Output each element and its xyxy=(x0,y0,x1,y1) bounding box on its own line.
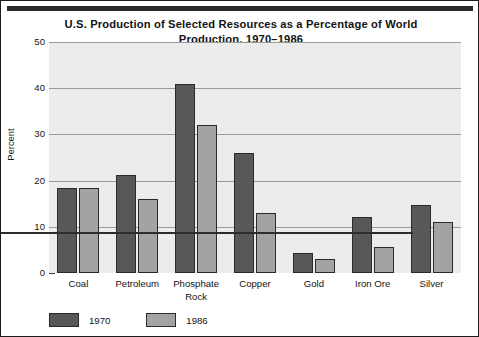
bar-copper-1986 xyxy=(256,213,276,273)
bar-iron-ore-1986 xyxy=(374,247,394,273)
y-axis-tick-mark xyxy=(49,273,55,274)
y-axis-ticks: 50403020100 xyxy=(13,42,45,273)
y-axis-tick-label: 30 xyxy=(17,128,45,139)
bar-phosphate-rock-1986 xyxy=(197,125,217,273)
y-axis-tick-label: 10 xyxy=(17,221,45,232)
x-axis-label-silver: Silver xyxy=(402,278,461,291)
bar-coal-1970 xyxy=(57,188,77,273)
x-axis-label-phosphate-rock: PhosphateRock xyxy=(167,278,226,303)
legend-label-1986: 1986 xyxy=(186,315,207,326)
y-axis-tick-label: 40 xyxy=(17,82,45,93)
x-axis-label-line: Petroleum xyxy=(108,278,167,291)
top-rule-decoration xyxy=(7,6,473,11)
gridline xyxy=(49,134,461,135)
x-axis-label-iron-ore: Iron Ore xyxy=(343,278,402,291)
legend-entry-1986: 1986 xyxy=(146,313,207,327)
bar-gold-1970 xyxy=(293,253,313,273)
x-axis-label-gold: Gold xyxy=(284,278,343,291)
x-axis-label-line: Rock xyxy=(167,291,226,304)
x-axis-line xyxy=(0,232,413,234)
x-axis-label-coal: Coal xyxy=(49,278,108,291)
x-axis-label-line: Gold xyxy=(284,278,343,291)
x-axis-category-labels: CoalPetroleumPhosphateRockCopperGoldIron… xyxy=(49,278,461,308)
y-axis-tick-label: 0 xyxy=(17,267,45,278)
x-axis-label-petroleum: Petroleum xyxy=(108,278,167,291)
bar-copper-1970 xyxy=(234,153,254,273)
x-axis-label-line: Silver xyxy=(402,278,461,291)
legend-swatch-1970 xyxy=(49,313,79,327)
plot-background xyxy=(49,42,461,273)
bar-coal-1986 xyxy=(79,188,99,273)
bar-silver-1970 xyxy=(411,205,431,273)
gridline xyxy=(49,88,461,89)
bar-gold-1986 xyxy=(315,259,335,273)
y-axis-tick-label: 20 xyxy=(17,175,45,186)
x-axis-label-line: Phosphate xyxy=(167,278,226,291)
bar-petroleum-1986 xyxy=(138,199,158,273)
bar-silver-1986 xyxy=(433,222,453,273)
legend-entry-1970: 1970 xyxy=(49,313,110,327)
y-axis-label: Percent xyxy=(5,115,16,175)
gridline xyxy=(49,227,461,228)
bar-phosphate-rock-1970 xyxy=(175,84,195,273)
x-axis-label-line: Iron Ore xyxy=(343,278,402,291)
x-axis-label-line: Copper xyxy=(226,278,285,291)
gridline xyxy=(49,42,461,43)
legend-label-1970: 1970 xyxy=(89,315,110,326)
bar-iron-ore-1970 xyxy=(352,217,372,273)
chart-title-line-1: U.S. Production of Selected Resources as… xyxy=(27,17,455,32)
x-axis-label-copper: Copper xyxy=(226,278,285,291)
legend-swatch-1986 xyxy=(146,313,176,327)
plot-area xyxy=(49,42,461,273)
x-axis-label-line: Coal xyxy=(49,278,108,291)
bar-petroleum-1970 xyxy=(116,175,136,273)
y-axis-tick-label: 50 xyxy=(17,36,45,47)
chart-figure: U.S. Production of Selected Resources as… xyxy=(0,0,479,337)
gridline xyxy=(49,181,461,182)
chart-legend: 19701986 xyxy=(49,310,244,330)
